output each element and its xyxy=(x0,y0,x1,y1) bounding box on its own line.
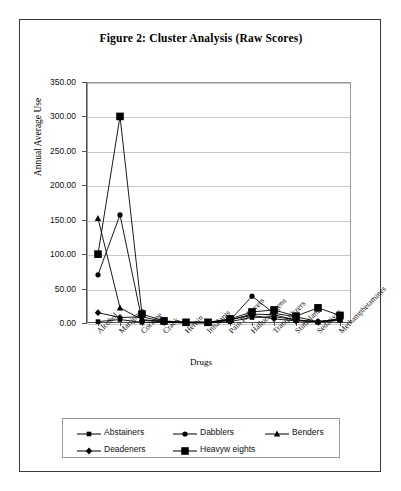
y-tick-label: 200.00 xyxy=(24,180,76,190)
data-point xyxy=(249,294,254,299)
legend-marker xyxy=(173,443,197,455)
legend-item-abstainers[interactable]: Abstainers xyxy=(77,426,144,438)
legend-row: DeadenersHeavyw eights xyxy=(63,440,339,457)
legend-label: Heavyw eights xyxy=(200,444,255,454)
data-point xyxy=(248,308,256,316)
data-point xyxy=(160,317,168,325)
series-line xyxy=(98,317,340,323)
legend-label: Benders xyxy=(292,427,324,437)
legend-marker xyxy=(173,426,197,438)
series-line xyxy=(98,116,340,322)
data-point xyxy=(117,304,123,310)
legend-key-square-icon xyxy=(77,428,101,440)
legend-marker xyxy=(265,426,289,438)
legend-key-bigsquare-icon xyxy=(173,445,197,457)
legend-label: Dabblers xyxy=(200,427,234,437)
y-tick-label: 100.00 xyxy=(24,249,76,259)
x-axis-title: Drugs xyxy=(20,357,382,367)
data-point xyxy=(116,113,124,121)
series-line xyxy=(98,215,340,322)
legend-item-heavyw-eights[interactable]: Heavyw eights xyxy=(173,443,255,455)
data-point xyxy=(138,310,146,318)
series-line xyxy=(98,218,340,322)
data-point xyxy=(182,319,190,327)
legend-label: Abstainers xyxy=(104,427,144,437)
y-tick-label: 50.00 xyxy=(24,284,76,294)
y-tick-mark xyxy=(82,323,87,324)
figure-frame: Figure 2: Cluster Analysis (Raw Scores) … xyxy=(19,19,381,472)
series-heavyw-eights xyxy=(94,113,344,326)
legend-label: Deadeners xyxy=(104,444,146,454)
legend-row: AbstainersDabblersBenders xyxy=(63,423,339,440)
legend-item-benders[interactable]: Benders xyxy=(265,426,324,438)
data-point xyxy=(94,250,102,258)
legend-key-diamond-icon xyxy=(77,445,101,457)
data-point xyxy=(96,319,101,324)
legend-key-triangle-icon xyxy=(265,428,289,440)
y-tick-label: 150.00 xyxy=(24,215,76,225)
legend-marker xyxy=(77,443,101,455)
data-point xyxy=(117,212,122,217)
series-layer xyxy=(87,82,351,323)
data-point xyxy=(292,312,300,320)
chart-title: Figure 2: Cluster Analysis (Raw Scores) xyxy=(20,32,382,44)
data-point xyxy=(270,306,278,314)
y-tick-label: 300.00 xyxy=(24,111,76,121)
legend-item-dabblers[interactable]: Dabblers xyxy=(173,426,234,438)
data-point xyxy=(226,315,234,323)
legend-item-deadeners[interactable]: Deadeners xyxy=(77,443,146,455)
legend-key-circle-icon xyxy=(173,428,197,440)
y-tick-label: 250.00 xyxy=(24,146,76,156)
legend-marker xyxy=(77,426,101,438)
legend: AbstainersDabblersBendersDeadenersHeavyw… xyxy=(62,418,340,458)
series-benders xyxy=(95,215,343,325)
data-point xyxy=(95,215,101,221)
y-tick-label: 350.00 xyxy=(24,77,76,87)
data-point xyxy=(204,319,212,327)
data-point xyxy=(314,304,322,312)
figure-page: Figure 2: Cluster Analysis (Raw Scores) … xyxy=(0,0,401,491)
y-tick-label: 0.00 xyxy=(24,318,76,328)
data-point xyxy=(95,309,101,316)
data-point xyxy=(336,312,344,320)
data-point xyxy=(95,272,100,277)
